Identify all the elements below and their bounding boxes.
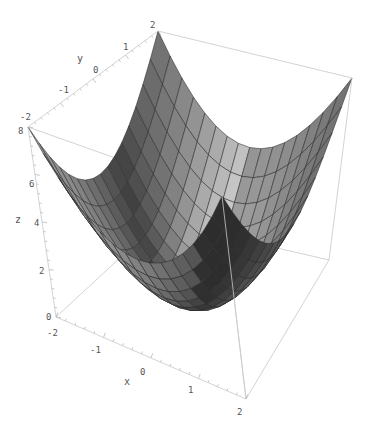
z-tick-label: 0 [46, 312, 51, 322]
axis-tick [142, 352, 143, 354]
axis-tick [132, 50, 134, 52]
axis-tick [180, 368, 181, 370]
y-tick-label: 2 [150, 20, 155, 30]
axis-tick [113, 65, 115, 67]
x-tick-label: -2 [47, 328, 58, 338]
y-tick-label: -1 [58, 85, 69, 95]
axis-tick [42, 222, 47, 223]
axis-tick [161, 360, 162, 362]
axis-tick [85, 327, 86, 329]
axis-tick [113, 339, 114, 341]
axis-tick [41, 117, 43, 119]
axis-tick [145, 41, 147, 43]
x-tick-label: 1 [188, 385, 193, 395]
y-tick-label: 1 [123, 42, 128, 52]
axis-tick [35, 175, 40, 176]
y-axis-label: y [77, 53, 83, 64]
x-tick-label: 0 [140, 367, 145, 377]
axis-tick [199, 374, 201, 379]
box-edge [246, 260, 329, 399]
z-axis-label: z [15, 214, 21, 225]
axis-tick [48, 113, 50, 115]
y-tick-label: -2 [20, 112, 31, 122]
x-axis-label: x [124, 376, 130, 387]
axis-tick [67, 98, 69, 100]
axis-tick [74, 93, 76, 95]
axis-tick [151, 353, 153, 358]
surface-patch [28, 127, 54, 170]
axis-tick [104, 333, 106, 338]
axis-tick [123, 343, 124, 345]
x-tick-label: 2 [237, 407, 242, 417]
axis-tick [189, 372, 190, 374]
axis-tick [35, 122, 37, 124]
axis-tick [139, 45, 141, 47]
axis-tick [93, 79, 96, 83]
z-tick-label: 8 [18, 126, 23, 136]
x-axis-ticks: -2 -1 0 1 2 x [47, 328, 242, 417]
axis-tick [227, 388, 228, 390]
surface-patch [39, 143, 64, 183]
z-tick-label: 6 [29, 179, 34, 189]
axis-tick [54, 108, 56, 110]
axis-tick [94, 331, 95, 333]
axis-tick [75, 323, 76, 325]
axis-tick [132, 347, 133, 349]
x-tick-label: -1 [90, 345, 101, 355]
axis-tick [119, 60, 121, 62]
axis-tick [66, 319, 67, 321]
axis-tick [100, 74, 102, 76]
surface-plot-3d: -2 -1 0 1 2 y 0 2 4 6 8 z -2 -1 0 1 2 x [0, 0, 369, 437]
z-tick-label: 2 [39, 266, 44, 276]
y-tick-label: 0 [93, 65, 98, 75]
axis-tick [80, 89, 82, 91]
z-tick-label: 4 [34, 218, 39, 228]
axis-tick [126, 55, 129, 59]
y-axis-ticks: -2 -1 0 1 2 y [20, 20, 155, 122]
axis-tick [49, 270, 54, 271]
axis-tick [152, 36, 154, 38]
box-edge [158, 31, 352, 78]
axis-tick [237, 393, 238, 395]
axis-tick [218, 384, 219, 386]
axis-tick [208, 380, 209, 382]
axis-tick [170, 364, 171, 366]
surface-mesh [28, 31, 352, 311]
axis-tick [61, 103, 64, 107]
axis-tick [106, 69, 108, 71]
surface-patch [327, 78, 352, 125]
axis-tick [87, 84, 89, 86]
